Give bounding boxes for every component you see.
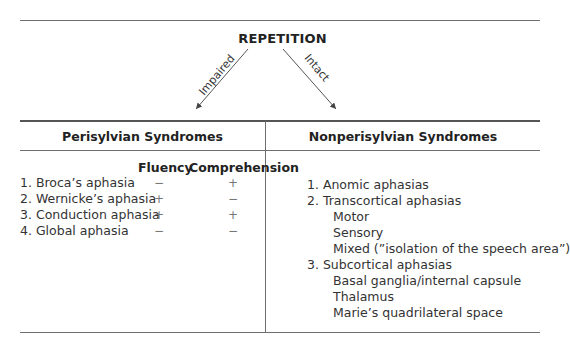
nonperisylvian-heading: Nonperisylvian Syndromes [266,129,540,144]
fluency-value: − [149,176,169,190]
comprehension-value: − [223,224,243,238]
list-subitem: Basal ganglia/internal capsule [307,273,570,289]
syndrome-name: 2. Wernicke’s aphasia [20,191,156,207]
list-item: 3. Subcortical aphasias [307,257,570,273]
fluency-value: + [149,192,169,206]
list-item: 1. Anomic aphasias [307,177,570,193]
column-divider [265,121,266,333]
comprehension-value: − [223,192,243,206]
header-underline [20,150,540,151]
syndrome-name: 1. Broca’s aphasia [20,175,135,191]
list-subitem: Sensory [307,225,570,241]
list-subitem: Motor [307,209,570,225]
list-item: 2. Transcortical aphasias [307,193,570,209]
fluency-value: + [149,208,169,222]
impaired-label: Impaired [196,52,237,98]
list-subitem: Marie’s quadrilateral space [307,305,570,321]
comprehension-subheader: Comprehension [189,160,299,175]
syndrome-name: 3. Conduction aphasia [20,207,160,223]
comprehension-value: + [223,208,243,222]
perisylvian-heading: Perisylvian Syndromes [20,129,265,144]
fluency-subheader: Fluency [138,160,193,175]
intact-label: Intact [302,52,333,85]
list-subitem: Mixed (”isolation of the speech area”) [307,241,570,257]
list-subitem: Thalamus [307,289,570,305]
fluency-value: − [149,224,169,238]
comprehension-value: + [223,176,243,190]
syndrome-name: 4. Global aphasia [20,223,129,239]
bottom-rule [20,332,540,333]
branch-arrows: Impaired Intact [0,0,557,125]
nonperisylvian-list: 1. Anomic aphasias 2. Transcortical apha… [307,177,570,321]
